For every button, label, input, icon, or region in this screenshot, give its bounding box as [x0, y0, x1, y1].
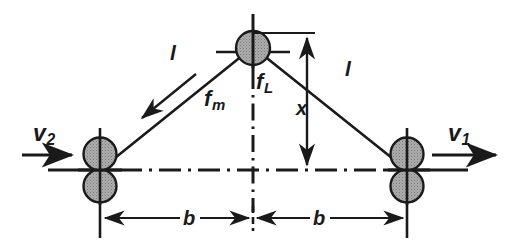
velocity-right-subscript: 1 [461, 131, 470, 148]
base-right-label: b [313, 208, 325, 228]
force-magnetic-label: fm [204, 88, 225, 110]
mechanism-diagram: l l fm fL v2 v1 x b b [0, 0, 511, 245]
force-load-label: fL [256, 71, 273, 93]
strut-right-label: l [345, 58, 351, 79]
strut-left-label: l [170, 42, 176, 63]
height-dimension-label: x [296, 98, 307, 118]
velocity-left-subscript: 2 [46, 131, 55, 148]
velocity-left-label: v2 [33, 122, 55, 145]
force-magnetic-arrow [142, 74, 196, 118]
base-left-label: b [183, 208, 195, 228]
strut-left [100, 47, 253, 170]
force-magnetic-subscript: m [211, 96, 225, 113]
velocity-right-label: v1 [448, 122, 470, 145]
diagram-canvas [0, 0, 511, 245]
force-load-subscript: L [263, 79, 273, 96]
strut-right [253, 47, 407, 170]
